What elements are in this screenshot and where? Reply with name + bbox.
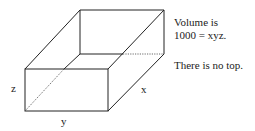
note-volume-line1: Volume is: [174, 16, 218, 28]
label-z: z: [11, 82, 16, 94]
top-right-receding-edge: [108, 10, 164, 69]
top-left-receding-edge: [25, 10, 80, 69]
note-no-top: There is no top.: [174, 59, 243, 71]
note-volume-line2: 1000 = xyz.: [174, 29, 226, 41]
front-face: [25, 69, 108, 111]
label-y: y: [61, 115, 67, 127]
hidden-left-bottom-edge: [25, 69, 64, 111]
label-x: x: [141, 83, 147, 95]
inner-left-bottom-edge: [64, 54, 80, 69]
bottom-right-receding-edge: [108, 54, 164, 111]
